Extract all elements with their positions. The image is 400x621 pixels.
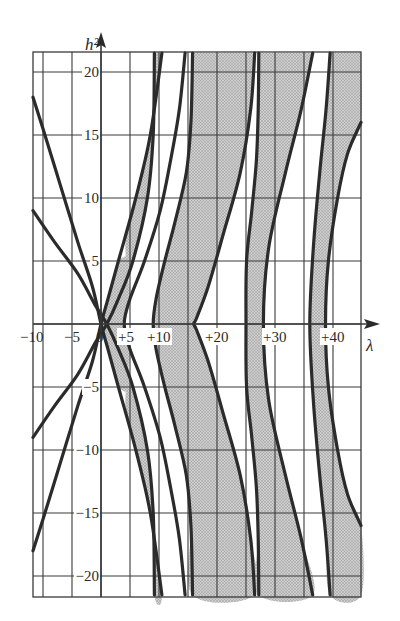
y-tick-label: 10 bbox=[84, 190, 99, 206]
x-tick-label: +30 bbox=[263, 329, 286, 345]
x-tick-label: 0 bbox=[96, 329, 104, 345]
x-tick-label: +5 bbox=[118, 329, 134, 345]
y-tick-label: 15 bbox=[84, 127, 99, 143]
y-tick-label: −15 bbox=[76, 505, 99, 521]
x-tick-label: +40 bbox=[321, 329, 344, 345]
x-tick-label: −5 bbox=[64, 329, 80, 345]
x-axis-title: λ bbox=[365, 336, 373, 355]
y-tick-label: −20 bbox=[76, 568, 99, 584]
y-axis-title: h² bbox=[85, 35, 100, 54]
x-tick-label: +10 bbox=[147, 329, 170, 345]
y-tick-label: 20 bbox=[84, 64, 99, 80]
x-tick-label: +20 bbox=[205, 329, 228, 345]
mathieu-stability-chart: −10−50+5+10+20+30+40 −20−15−10−55101520 … bbox=[0, 0, 400, 621]
x-tick-label: −10 bbox=[20, 329, 43, 345]
y-tick-label: −10 bbox=[76, 442, 99, 458]
y-tick-label: 5 bbox=[92, 253, 100, 269]
y-tick-label: −5 bbox=[83, 379, 99, 395]
